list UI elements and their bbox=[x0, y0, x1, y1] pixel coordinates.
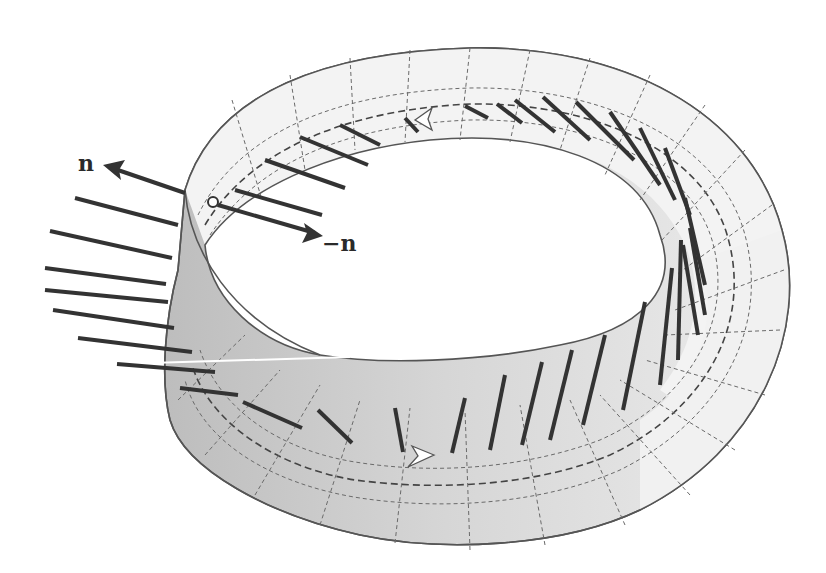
normal-vector-n bbox=[103, 160, 185, 193]
base-point bbox=[208, 197, 218, 207]
mobius-strip-diagram bbox=[0, 0, 826, 573]
label-n: n bbox=[78, 150, 94, 176]
label-negative-n: −n bbox=[322, 230, 356, 256]
strip-surface bbox=[165, 48, 790, 545]
